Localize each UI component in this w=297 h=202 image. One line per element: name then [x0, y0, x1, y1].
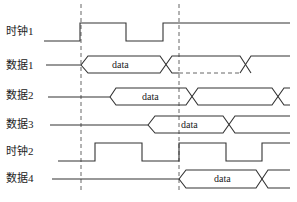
waveform-canvas: data data data data [0, 0, 297, 202]
data-4-waveform: data [52, 170, 290, 188]
data-3-bus-text: data [181, 119, 198, 130]
data-4-bus-text: data [214, 173, 231, 184]
data-2-waveform: data [48, 88, 290, 105]
data-1-bus-text: data [112, 59, 129, 70]
data-1-waveform: data [46, 56, 290, 73]
data-3-waveform: data [50, 116, 290, 133]
clock-2-waveform [58, 143, 290, 161]
data-2-bus-text: data [142, 91, 159, 102]
